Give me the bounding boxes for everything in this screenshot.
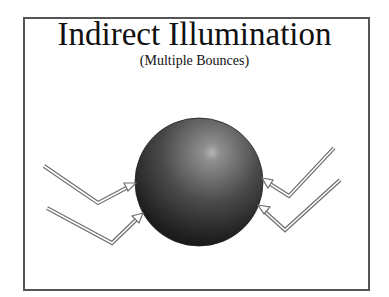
illumination-diagram — [0, 0, 389, 297]
incoming-light-arrow-left-1 — [44, 166, 136, 203]
sphere — [135, 118, 263, 246]
incoming-light-arrow-left-2 — [47, 208, 143, 243]
incoming-light-arrow-right-1 — [262, 148, 334, 196]
